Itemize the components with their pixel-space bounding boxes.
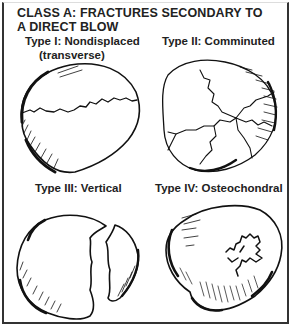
patella-osteochondral-fracture — [166, 206, 282, 311]
illustrations — [0, 0, 296, 334]
patella-comminuted-fracture — [163, 60, 277, 171]
patella-vertical-fracture — [17, 215, 138, 319]
patella-transverse-fracture — [21, 64, 139, 173]
